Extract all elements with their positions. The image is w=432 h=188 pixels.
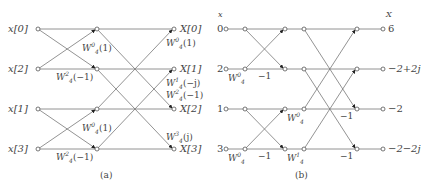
twiddle-a-s1-1: W24(−1) [56, 71, 93, 84]
input-value-3: 3 [217, 144, 223, 154]
twiddle-a-s2-1: W14(−j) [166, 77, 200, 90]
output-label-X0: X[0] [180, 24, 201, 34]
input-label-x3: x[3] [8, 144, 28, 154]
output-label-X2: X[2] [180, 104, 201, 114]
twiddle-a-s1-2: W04(1) [82, 122, 112, 135]
twiddle-b-s2-0: W04 [287, 112, 304, 125]
input-header-x: x [218, 11, 223, 19]
input-value-1: 1 [217, 104, 223, 114]
output-label-X3: X[3] [180, 144, 201, 154]
caption-a: (a) [100, 170, 112, 180]
caption-b: (b) [295, 170, 308, 180]
input-value-2: 2 [217, 64, 223, 74]
twiddle-a-s1-0: W04(1) [82, 42, 112, 55]
minus-one-label-s2-row2: −1 [340, 112, 353, 121]
twiddle-a-s1-3: W24(−1) [56, 151, 93, 164]
twiddle-a-s2-0: W04(1) [166, 37, 196, 50]
output-value-0: 6 [388, 24, 394, 34]
twiddle-b-s1-1: W04 [228, 152, 245, 165]
twiddle-b-s2-1: W14 [287, 152, 304, 165]
output-value-2: −2 [388, 104, 403, 114]
output-value-3: −2−2j [388, 144, 421, 154]
minus-one-label-s1-bottom: −1 [258, 152, 271, 161]
input-label-x2: x[2] [8, 64, 28, 74]
input-label-x1: x[1] [8, 104, 28, 114]
output-header-X: X [386, 11, 392, 19]
minus-one-label-s1-top: −1 [258, 72, 271, 81]
input-label-x0: x[0] [8, 24, 28, 34]
input-value-0: 0 [217, 24, 223, 34]
output-label-X1: X[1] [180, 64, 201, 74]
output-value-1: −2+2j [388, 64, 421, 74]
twiddle-a-s2-3: W34(j) [166, 131, 193, 144]
minus-one-label-s2-row3: −1 [340, 152, 353, 161]
twiddle-a-s2-2: W24(−1) [166, 89, 203, 102]
twiddle-b-s1-0: W04 [228, 72, 245, 85]
